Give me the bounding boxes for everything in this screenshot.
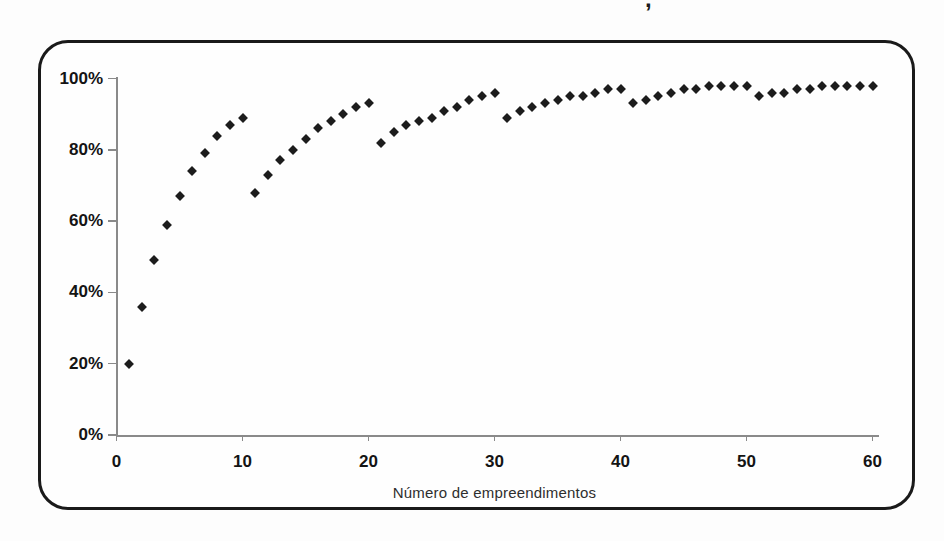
data-point-marker bbox=[666, 88, 676, 98]
data-point-marker bbox=[716, 81, 726, 91]
data-point-marker bbox=[490, 88, 500, 98]
data-point-marker bbox=[137, 302, 147, 312]
x-axis-tick bbox=[746, 435, 748, 441]
data-point-marker bbox=[263, 170, 273, 180]
data-point-marker bbox=[855, 81, 865, 91]
page: { "figure": { "cropped_title_fragment": … bbox=[0, 0, 944, 541]
data-point-marker bbox=[313, 123, 323, 133]
data-point-marker bbox=[691, 84, 701, 94]
data-point-marker bbox=[628, 99, 638, 109]
data-point-marker bbox=[729, 81, 739, 91]
data-point-marker bbox=[288, 145, 298, 155]
data-point-marker bbox=[464, 95, 474, 105]
data-point-marker bbox=[238, 113, 248, 123]
data-point-marker bbox=[641, 95, 651, 105]
y-tick-label: 100% bbox=[41, 69, 103, 89]
data-point-marker bbox=[704, 81, 714, 91]
x-axis-tick bbox=[116, 435, 118, 441]
data-point-marker bbox=[427, 113, 437, 123]
data-point-marker bbox=[149, 255, 159, 265]
x-axis-tick bbox=[872, 435, 874, 441]
data-point-marker bbox=[502, 113, 512, 123]
data-point-marker bbox=[401, 120, 411, 130]
x-axis-line bbox=[116, 435, 879, 437]
data-point-marker bbox=[767, 88, 777, 98]
x-axis-tick bbox=[242, 435, 244, 441]
data-point-marker bbox=[477, 91, 487, 101]
x-axis-title: Número de empreendimentos bbox=[116, 484, 873, 501]
x-axis-tick bbox=[368, 435, 370, 441]
y-axis-tick bbox=[108, 78, 117, 80]
data-point-marker bbox=[301, 134, 311, 144]
y-tick-label: 0% bbox=[41, 425, 103, 445]
data-point-marker bbox=[212, 131, 222, 141]
data-point-marker bbox=[616, 84, 626, 94]
cropped-title-fragment: , bbox=[645, 0, 652, 13]
x-axis-tick bbox=[620, 435, 622, 441]
data-point-marker bbox=[590, 88, 600, 98]
x-tick-label: 30 bbox=[473, 452, 517, 472]
data-point-marker bbox=[653, 91, 663, 101]
data-point-marker bbox=[187, 166, 197, 176]
y-axis-tick bbox=[108, 149, 117, 151]
y-axis-tick bbox=[108, 220, 117, 222]
data-point-marker bbox=[364, 99, 374, 109]
data-point-marker bbox=[527, 102, 537, 112]
data-point-marker bbox=[439, 106, 449, 116]
y-tick-label: 20% bbox=[41, 354, 103, 374]
x-tick-label: 50 bbox=[725, 452, 769, 472]
data-point-marker bbox=[742, 81, 752, 91]
data-point-marker bbox=[792, 84, 802, 94]
data-point-marker bbox=[817, 81, 827, 91]
data-point-marker bbox=[515, 106, 525, 116]
data-point-marker bbox=[779, 88, 789, 98]
plot-area: 0%20%40%60%80%100%0102030405060 Número d… bbox=[41, 43, 912, 507]
x-tick-label: 10 bbox=[221, 452, 265, 472]
data-point-marker bbox=[275, 156, 285, 166]
data-point-marker bbox=[830, 81, 840, 91]
x-tick-label: 60 bbox=[851, 452, 895, 472]
x-tick-label: 0 bbox=[95, 452, 139, 472]
y-axis-tick bbox=[108, 292, 117, 294]
y-tick-label: 40% bbox=[41, 282, 103, 302]
x-tick-label: 20 bbox=[347, 452, 391, 472]
data-point-marker bbox=[338, 109, 348, 119]
data-point-marker bbox=[414, 116, 424, 126]
data-point-marker bbox=[225, 120, 235, 130]
data-point-marker bbox=[754, 91, 764, 101]
data-point-marker bbox=[578, 91, 588, 101]
y-axis-tick bbox=[108, 363, 117, 365]
data-point-marker bbox=[200, 148, 210, 158]
data-point-marker bbox=[452, 102, 462, 112]
data-point-marker bbox=[389, 127, 399, 137]
y-axis-line bbox=[116, 77, 118, 435]
data-point-marker bbox=[376, 138, 386, 148]
x-tick-label: 40 bbox=[599, 452, 643, 472]
data-point-marker bbox=[540, 99, 550, 109]
data-point-marker bbox=[842, 81, 852, 91]
x-axis-tick bbox=[494, 435, 496, 441]
data-point-marker bbox=[565, 91, 575, 101]
data-point-marker bbox=[679, 84, 689, 94]
y-tick-label: 60% bbox=[41, 211, 103, 231]
data-point-marker bbox=[805, 84, 815, 94]
data-point-marker bbox=[175, 191, 185, 201]
data-point-marker bbox=[351, 102, 361, 112]
data-point-marker bbox=[250, 188, 260, 198]
data-point-marker bbox=[603, 84, 613, 94]
data-point-marker bbox=[868, 81, 878, 91]
data-point-marker bbox=[553, 95, 563, 105]
data-point-marker bbox=[326, 116, 336, 126]
chart-frame: 0%20%40%60%80%100%0102030405060 Número d… bbox=[38, 40, 915, 510]
data-point-marker bbox=[162, 220, 172, 230]
data-point-marker bbox=[124, 359, 134, 369]
y-tick-label: 80% bbox=[41, 140, 103, 160]
